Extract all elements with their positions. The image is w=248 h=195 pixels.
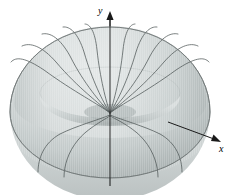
surface-body <box>0 0 248 195</box>
x-axis-label: x <box>219 144 223 154</box>
y-axis-arrowhead <box>106 11 113 20</box>
x-axis-arrowhead <box>211 135 221 143</box>
y-axis-label: y <box>98 6 102 16</box>
surface-plot-canvas <box>0 0 248 195</box>
surface-plot-figure: y x <box>0 0 248 195</box>
